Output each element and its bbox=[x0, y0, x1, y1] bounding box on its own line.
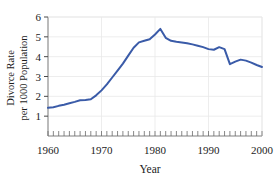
x-axis-tick-label: 1960 bbox=[37, 144, 60, 156]
y-axis-tick-label: 6 bbox=[36, 11, 42, 23]
x-axis-title: Year bbox=[139, 163, 160, 175]
y-axis-title-line1: Divorce Rate bbox=[5, 50, 16, 106]
y-axis-tick-label: 4 bbox=[36, 51, 42, 63]
x-axis-tick-label: 1970 bbox=[91, 144, 114, 156]
divorce-rate-line-chart: 123456 19601970198019902000 Year Divorce… bbox=[0, 0, 275, 178]
y-axis-tick-label: 3 bbox=[36, 71, 42, 83]
y-axis-tick-label: 1 bbox=[36, 110, 42, 122]
y-axis-tick-label: 2 bbox=[36, 90, 42, 102]
x-axis-tick-label: 1980 bbox=[144, 144, 167, 156]
chart-figure: 123456 19601970198019902000 Year Divorce… bbox=[0, 0, 275, 178]
y-axis-title-line2: per 1000 Population bbox=[18, 35, 29, 121]
x-axis-tick-label: 1990 bbox=[198, 144, 221, 156]
x-axis-tick-label: 2000 bbox=[251, 144, 274, 156]
x-axis-minor-ticks bbox=[48, 131, 262, 136]
y-axis-tick-label: 5 bbox=[36, 31, 42, 43]
